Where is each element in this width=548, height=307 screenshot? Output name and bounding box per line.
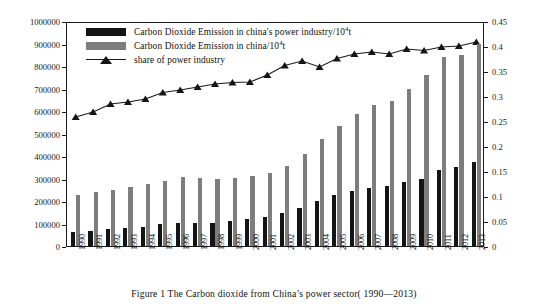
share-line-marker — [141, 96, 149, 102]
left-axis-tick-label: 700000 — [0, 85, 60, 95]
left-axis-tick-label: 300000 — [0, 175, 60, 185]
right-axis-tick-mark — [484, 72, 488, 73]
left-axis-tick-label: 600000 — [0, 107, 60, 117]
right-axis-tick-label: 0.4 — [492, 42, 532, 52]
bar-power-industry-emission — [193, 223, 197, 246]
x-axis-tick-label: 2008 — [391, 234, 400, 250]
right-axis-tick-mark — [484, 222, 488, 223]
left-axis-tick-mark — [62, 135, 66, 136]
x-axis-tick-label: 1990 — [78, 234, 87, 250]
bar-power-industry-emission — [367, 188, 371, 246]
x-axis-tick-label: 1993 — [130, 234, 139, 250]
right-axis-tick-mark — [484, 147, 488, 148]
x-axis-tick-label: 1995 — [165, 234, 174, 250]
bar-power-industry-emission — [263, 217, 267, 246]
bar-china-emission — [424, 75, 428, 246]
right-axis-tick-mark — [484, 47, 488, 48]
x-axis-tick-label: 2000 — [252, 234, 261, 250]
right-axis-tick-mark — [484, 122, 488, 123]
x-axis-tick-label: 2010 — [426, 234, 435, 250]
left-axis-tick-mark — [62, 112, 66, 113]
left-axis-tick-mark — [62, 90, 66, 91]
bar-power-industry-emission — [71, 232, 75, 246]
left-axis-tick-label: 1000000 — [0, 17, 60, 27]
bar-power-industry-emission — [454, 167, 458, 246]
x-axis-tick-label: 2005 — [339, 234, 348, 250]
black-square-swatch-icon — [86, 28, 126, 36]
x-axis-tick-label: 2009 — [409, 234, 418, 250]
bar-power-industry-emission — [158, 224, 162, 246]
bar-china-emission — [390, 101, 394, 246]
legend-item-power-industry-emission: Carbon Dioxide Emission in china's power… — [86, 25, 386, 38]
legend-item-share: share of power industry — [86, 53, 386, 66]
right-axis-tick-label: 0.05 — [492, 217, 532, 227]
x-axis-tick-label: 2006 — [357, 234, 366, 250]
bar-power-industry-emission — [106, 229, 110, 246]
bar-power-industry-emission — [245, 219, 249, 246]
figure-container: 0100000200000300000400000500000600000700… — [0, 0, 548, 307]
bar-power-industry-emission — [350, 191, 354, 246]
right-axis-tick-label: 0.3 — [492, 92, 532, 102]
right-axis-tick-label: 0.25 — [492, 117, 532, 127]
right-axis-tick-label: 0.2 — [492, 142, 532, 152]
bar-power-industry-emission — [88, 231, 92, 246]
x-axis-tick-label: 1994 — [148, 234, 157, 250]
bar-power-industry-emission — [385, 186, 389, 246]
x-axis-tick-label: 1998 — [217, 234, 226, 250]
x-axis-tick-label: 2004 — [322, 234, 331, 250]
legend: Carbon Dioxide Emission in china's power… — [86, 25, 386, 67]
bar-china-emission — [355, 114, 359, 246]
bar-power-industry-emission — [228, 221, 232, 246]
right-axis-tick-label: 0 — [492, 242, 532, 252]
bar-china-emission — [459, 55, 463, 246]
bar-power-industry-emission — [141, 227, 145, 246]
bar-power-industry-emission — [419, 179, 423, 247]
bar-china-emission — [477, 44, 481, 247]
x-axis-tick-label: 2002 — [287, 234, 296, 250]
left-axis-tick-mark — [62, 180, 66, 181]
share-line-marker — [263, 72, 271, 78]
x-axis-tick-label: 2001 — [269, 234, 278, 250]
left-axis-tick-label: 800000 — [0, 62, 60, 72]
x-axis-tick-label: 2007 — [374, 234, 383, 250]
right-axis-tick-label: 0.1 — [492, 192, 532, 202]
right-axis-tick-mark — [484, 97, 488, 98]
left-axis-tick-mark — [62, 45, 66, 46]
right-axis-tick-label: 0.35 — [492, 67, 532, 77]
x-axis-tick-label: 2003 — [304, 234, 313, 250]
left-axis-tick-label: 0 — [0, 242, 60, 252]
line-triangle-marker-swatch-icon — [86, 56, 126, 64]
left-axis-tick-mark — [62, 67, 66, 68]
x-axis: 1990199119921993199419951996199719981999… — [66, 249, 484, 289]
left-axis-tick-label: 900000 — [0, 40, 60, 50]
bar-power-industry-emission — [332, 195, 336, 246]
right-axis-tick-label: 0.15 — [492, 167, 532, 177]
right-axis-tick-mark — [484, 172, 488, 173]
x-axis-tick-label: 2012 — [461, 234, 470, 250]
left-axis-tick-mark — [62, 157, 66, 158]
left-axis-tick-label: 200000 — [0, 197, 60, 207]
bar-power-industry-emission — [402, 182, 406, 246]
bar-china-emission — [303, 154, 307, 246]
bar-power-industry-emission — [297, 208, 301, 246]
left-axis-tick-mark — [62, 22, 66, 23]
x-axis-tick-label: 1992 — [113, 234, 122, 250]
left-axis-tick-mark — [62, 225, 66, 226]
right-axis-tick-mark — [484, 197, 488, 198]
right-axis-tick-label: 0.45 — [492, 17, 532, 27]
bar-china-emission — [372, 105, 376, 246]
x-axis-tick-label: 2013 — [478, 234, 487, 250]
bar-power-industry-emission — [176, 223, 180, 246]
left-axis-tick-label: 500000 — [0, 130, 60, 140]
left-axis-tick-label: 100000 — [0, 220, 60, 230]
bar-power-industry-emission — [280, 213, 284, 246]
bar-power-industry-emission — [437, 170, 441, 247]
bar-china-emission — [442, 57, 446, 246]
x-axis-tick-label: 1997 — [200, 234, 209, 250]
legend-label-power-industry-emission: Carbon Dioxide Emission in china's power… — [134, 25, 351, 37]
bar-power-industry-emission — [210, 223, 214, 246]
bar-power-industry-emission — [472, 162, 476, 246]
bar-china-emission — [407, 89, 411, 247]
legend-label-share: share of power industry — [134, 55, 225, 65]
share-line-marker — [89, 109, 97, 115]
